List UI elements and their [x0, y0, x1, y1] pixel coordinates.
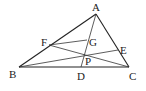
label-d: D — [77, 70, 85, 82]
segment-be — [19, 50, 118, 67]
label-c: C — [129, 70, 136, 82]
label-f: F — [41, 36, 47, 48]
label-a: A — [92, 1, 100, 13]
label-p: P — [85, 55, 91, 67]
label-b: B — [9, 68, 16, 80]
label-e: E — [120, 44, 127, 56]
geometry-diagram: A B C D E F G P — [0, 0, 146, 91]
triangle-edges — [19, 14, 129, 67]
label-g: G — [89, 36, 97, 48]
